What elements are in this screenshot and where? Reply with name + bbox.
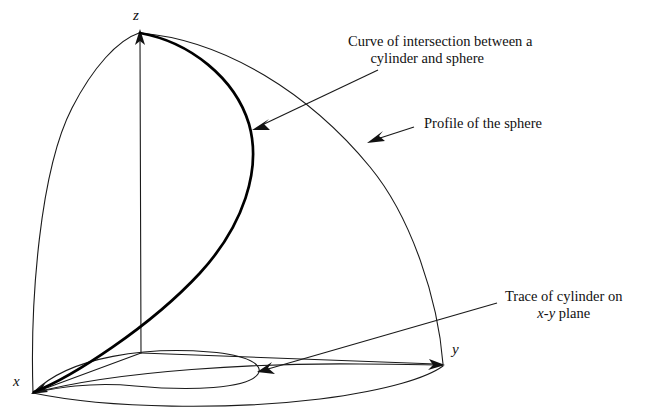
axis-label-y: y [452,342,459,357]
callout-curve-of-intersection: Curve of intersection between a cylinder… [348,33,532,67]
callout-curve-of-intersection-line1: Curve of intersection between a [348,33,532,49]
curve-of-intersection [34,33,253,392]
sphere-equator-front-arc [33,366,443,406]
diagram-svg [0,0,662,416]
y-axis-line [141,353,436,364]
figure-canvas: z y x Curve of intersection between a cy… [0,0,662,416]
leader-line-profile-sphere [377,127,414,139]
z-axis-line [140,38,141,353]
callout-profile-of-sphere: Profile of the sphere [424,115,542,132]
leader-line-curve-intersection [262,70,378,125]
callout-trace-of-cylinder-line2: x-y plane [505,305,622,322]
cylinder-trace-ellipse [33,351,259,393]
callout-profile-of-sphere-line1: Profile of the sphere [424,115,542,131]
sphere-profile-arc [140,33,443,364]
axis-label-z: z [133,8,139,23]
callout-trace-plane-word: plane [555,305,590,321]
leader-line-trace-cylinder [268,303,497,369]
leader-arrowhead-curve-intersection [252,119,270,130]
callout-curve-of-intersection-line2: cylinder and sphere [348,50,532,67]
callout-trace-of-cylinder-line1: Trace of cylinder on [505,288,622,304]
axis-label-x: x [13,374,20,389]
callout-trace-of-cylinder: Trace of cylinder on x-y plane [505,288,622,322]
